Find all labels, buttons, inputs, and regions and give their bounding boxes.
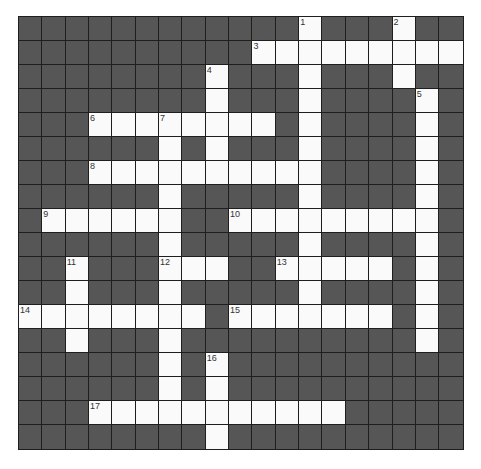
crossword-cell-open[interactable] [299,281,322,305]
crossword-cell-open[interactable] [322,41,345,65]
crossword-cell-open[interactable] [276,41,299,65]
crossword-cell-open[interactable] [416,113,439,137]
crossword-cell-open[interactable] [346,41,369,65]
crossword-cell-open[interactable] [439,41,462,65]
crossword-cell-open[interactable]: 16 [206,353,229,377]
crossword-cell-open[interactable] [322,401,345,425]
crossword-cell-open[interactable] [299,233,322,257]
crossword-cell-open[interactable] [66,209,89,233]
crossword-cell-open[interactable] [159,281,182,305]
crossword-cell-open[interactable] [252,209,275,233]
crossword-cell-open[interactable] [416,209,439,233]
crossword-cell-open[interactable] [159,161,182,185]
crossword-cell-open[interactable] [89,305,112,329]
crossword-cell-open[interactable] [159,305,182,329]
crossword-cell-open[interactable] [369,305,392,329]
crossword-cell-open[interactable]: 4 [206,65,229,89]
crossword-cell-open[interactable] [112,113,135,137]
crossword-cell-open[interactable] [159,137,182,161]
crossword-cell-open[interactable] [369,257,392,281]
crossword-cell-open[interactable] [112,305,135,329]
crossword-cell-open[interactable] [229,113,252,137]
crossword-cell-open[interactable]: 6 [89,113,112,137]
crossword-cell-open[interactable] [299,401,322,425]
crossword-cell-open[interactable] [299,257,322,281]
crossword-cell-open[interactable] [159,401,182,425]
crossword-cell-open[interactable] [416,41,439,65]
crossword-cell-open[interactable] [182,113,205,137]
crossword-cell-open[interactable] [182,305,205,329]
crossword-cell-open[interactable]: 2 [393,17,416,41]
crossword-cell-open[interactable] [159,233,182,257]
crossword-cell-open[interactable] [346,305,369,329]
crossword-cell-open[interactable] [229,161,252,185]
crossword-cell-open[interactable]: 1 [299,17,322,41]
crossword-cell-open[interactable] [322,305,345,329]
crossword-cell-open[interactable] [206,89,229,113]
crossword-cell-open[interactable] [299,113,322,137]
crossword-cell-open[interactable] [136,209,159,233]
crossword-cell-open[interactable] [416,281,439,305]
crossword-cell-open[interactable]: 8 [89,161,112,185]
crossword-cell-open[interactable] [416,185,439,209]
crossword-cell-open[interactable] [206,401,229,425]
crossword-cell-open[interactable] [299,305,322,329]
crossword-cell-open[interactable] [276,401,299,425]
crossword-cell-open[interactable] [393,209,416,233]
crossword-cell-open[interactable] [252,161,275,185]
crossword-cell-open[interactable] [299,161,322,185]
crossword-cell-open[interactable] [369,41,392,65]
crossword-cell-open[interactable] [66,281,89,305]
crossword-cell-open[interactable] [89,209,112,233]
crossword-cell-open[interactable] [136,113,159,137]
crossword-cell-open[interactable]: 3 [252,41,275,65]
crossword-cell-open[interactable] [206,113,229,137]
crossword-cell-open[interactable] [206,377,229,401]
crossword-cell-open[interactable]: 11 [66,257,89,281]
crossword-cell-open[interactable] [206,425,229,449]
crossword-cell-open[interactable] [252,305,275,329]
crossword-cell-open[interactable] [346,257,369,281]
crossword-cell-open[interactable] [112,161,135,185]
crossword-cell-open[interactable] [299,41,322,65]
crossword-cell-open[interactable] [182,257,205,281]
crossword-cell-open[interactable] [416,329,439,353]
crossword-cell-open[interactable]: 10 [229,209,252,233]
crossword-cell-open[interactable] [276,305,299,329]
crossword-cell-open[interactable] [416,137,439,161]
crossword-cell-open[interactable] [393,65,416,89]
crossword-cell-open[interactable] [112,401,135,425]
crossword-cell-open[interactable]: 13 [276,257,299,281]
crossword-cell-open[interactable] [299,89,322,113]
crossword-cell-open[interactable] [159,353,182,377]
crossword-cell-open[interactable] [206,137,229,161]
crossword-cell-open[interactable]: 9 [42,209,65,233]
crossword-cell-open[interactable] [159,209,182,233]
crossword-cell-open[interactable] [299,65,322,89]
crossword-cell-open[interactable]: 15 [229,305,252,329]
crossword-cell-open[interactable] [229,401,252,425]
crossword-cell-open[interactable] [136,161,159,185]
crossword-cell-open[interactable]: 7 [159,113,182,137]
crossword-cell-open[interactable] [276,161,299,185]
crossword-cell-open[interactable] [66,305,89,329]
crossword-cell-open[interactable] [182,161,205,185]
crossword-cell-open[interactable] [322,257,345,281]
crossword-cell-open[interactable] [206,161,229,185]
crossword-cell-open[interactable] [66,329,89,353]
crossword-cell-open[interactable] [136,305,159,329]
crossword-cell-open[interactable] [159,185,182,209]
crossword-cell-open[interactable] [369,209,392,233]
crossword-cell-open[interactable]: 17 [89,401,112,425]
crossword-cell-open[interactable]: 12 [159,257,182,281]
crossword-cell-open[interactable] [276,209,299,233]
crossword-cell-open[interactable] [416,233,439,257]
crossword-cell-open[interactable] [159,329,182,353]
crossword-cell-open[interactable] [112,209,135,233]
crossword-cell-open[interactable]: 14 [19,305,42,329]
crossword-cell-open[interactable] [299,209,322,233]
crossword-cell-open[interactable] [393,41,416,65]
crossword-cell-open[interactable]: 5 [416,89,439,113]
crossword-cell-open[interactable] [322,209,345,233]
crossword-cell-open[interactable] [252,401,275,425]
